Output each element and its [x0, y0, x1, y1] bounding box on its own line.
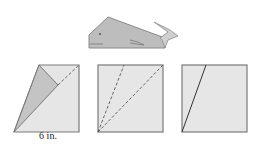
step-3-square — [182, 65, 247, 132]
origami-diagram — [0, 0, 260, 145]
dimension-label: 6 in. — [28, 130, 68, 141]
whale-eye — [99, 33, 101, 35]
step-1-square — [14, 65, 79, 132]
whale-figure — [89, 17, 178, 48]
step-2-square — [98, 65, 163, 132]
